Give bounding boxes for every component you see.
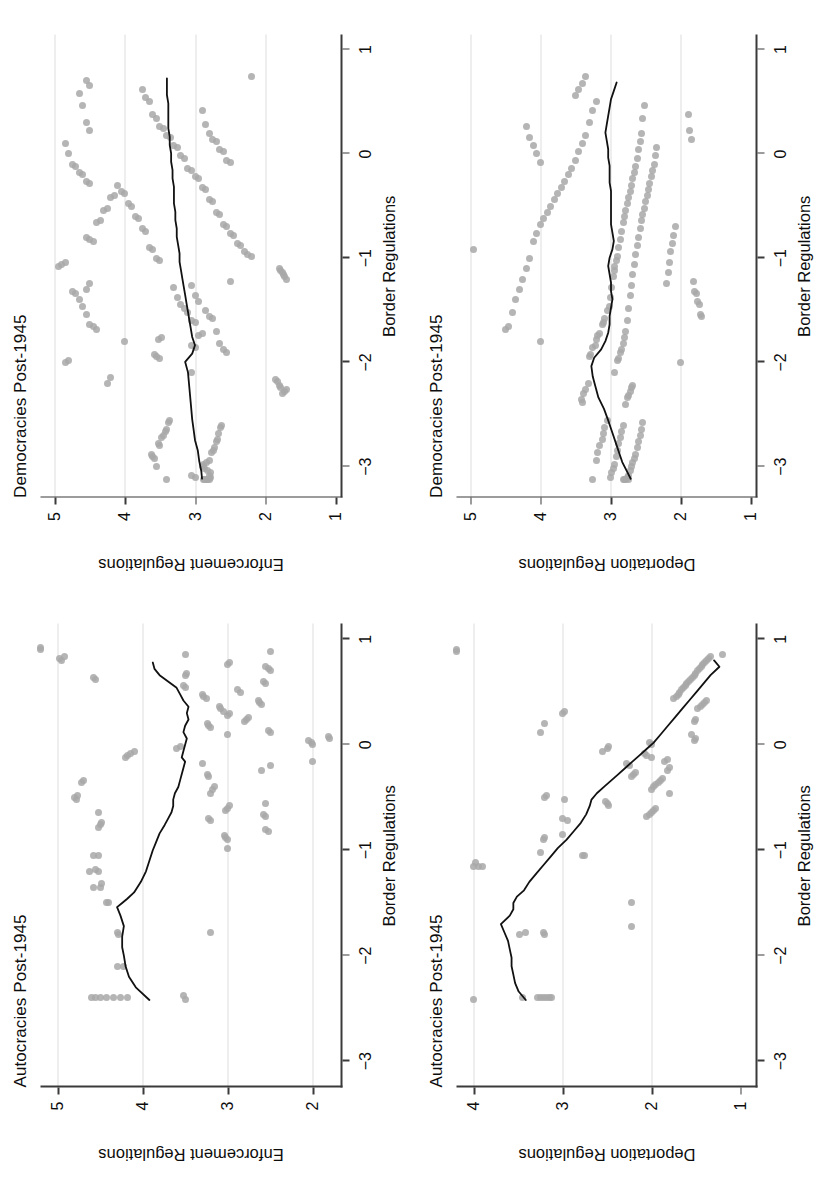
x-tick <box>342 465 349 467</box>
y-tick <box>610 498 612 505</box>
y-tick-label: 4 <box>464 1101 482 1110</box>
x-tick <box>757 48 764 50</box>
x-tick <box>342 848 349 850</box>
y-tick-label: 5 <box>461 512 479 521</box>
y-tick <box>540 498 542 505</box>
plot-area: −3−2−1012345 <box>40 624 342 1088</box>
panel-title: Autocracies Post-1945 <box>426 914 446 1087</box>
x-tick-label: −2 <box>356 946 374 964</box>
panel-democracies-deportation: Democracies Post-1945 Deportation Regula… <box>416 0 831 590</box>
y-tick-label: 1 <box>731 1101 749 1110</box>
x-tick-label: −3 <box>771 457 789 475</box>
x-tick <box>757 465 764 467</box>
x-tick-label: −3 <box>356 457 374 475</box>
y-tick <box>335 498 337 505</box>
y-tick-label: 1 <box>741 512 759 521</box>
x-tick-label: 0 <box>771 149 789 158</box>
x-tick-label: 1 <box>771 45 789 54</box>
y-tick-label: 4 <box>133 1101 151 1110</box>
panel-title: Democracies Post-1945 <box>10 314 30 498</box>
figure-canvas: Autocracies Post-1945 Enforcement Regula… <box>0 0 831 1179</box>
y-tick-label: 5 <box>48 1101 66 1110</box>
x-tick <box>342 152 349 154</box>
y-tick <box>265 498 267 505</box>
y-tick <box>124 498 126 505</box>
x-tick <box>757 954 764 956</box>
x-tick-label: −1 <box>771 841 789 859</box>
plot-area: −3−2−10112345 <box>456 34 758 498</box>
x-tick <box>342 48 349 50</box>
x-tick <box>757 360 764 362</box>
x-tick <box>342 954 349 956</box>
y-tick-label: 3 <box>601 512 619 521</box>
x-tick <box>342 360 349 362</box>
panel-autocracies-deportation: Autocracies Post-1945 Deportation Regula… <box>416 590 831 1179</box>
y-tick-label: 4 <box>531 512 549 521</box>
x-tick <box>757 637 764 639</box>
y-axis-title: Enforcement Regulations <box>40 1143 342 1165</box>
panel-autocracies-enforcement: Autocracies Post-1945 Enforcement Regula… <box>0 590 416 1179</box>
y-tick-label: 1 <box>326 512 344 521</box>
plot-area: −3−2−10112345 <box>40 34 342 498</box>
x-tick-label: 1 <box>771 634 789 643</box>
y-tick-label: 3 <box>218 1101 236 1110</box>
y-tick <box>195 498 197 505</box>
x-tick-label: 0 <box>771 740 789 749</box>
x-tick <box>757 848 764 850</box>
y-tick-label: 2 <box>303 1101 321 1110</box>
y-tick <box>57 1087 59 1094</box>
panel-title: Democracies Post-1945 <box>426 314 446 498</box>
x-tick-label: −1 <box>771 249 789 267</box>
y-tick <box>312 1087 314 1094</box>
trend-line <box>456 34 758 498</box>
x-tick-label: −1 <box>356 841 374 859</box>
y-tick <box>562 1087 564 1094</box>
panel-title: Autocracies Post-1945 <box>10 914 30 1087</box>
x-tick <box>757 256 764 258</box>
y-tick-label: 3 <box>553 1101 571 1110</box>
y-tick <box>470 498 472 505</box>
trend-line <box>40 34 342 498</box>
x-tick-label: −3 <box>771 1052 789 1070</box>
x-tick-label: −1 <box>356 249 374 267</box>
x-tick <box>342 1059 349 1061</box>
x-tick-label: 1 <box>356 634 374 643</box>
y-tick <box>651 1087 653 1094</box>
x-tick-label: −2 <box>356 353 374 371</box>
x-axis-title: Border Regulations <box>794 624 813 1088</box>
x-tick <box>342 743 349 745</box>
x-tick <box>342 637 349 639</box>
y-tick <box>142 1087 144 1094</box>
y-tick-label: 4 <box>115 512 133 521</box>
x-axis-title: Border Regulations <box>379 624 398 1088</box>
y-tick <box>227 1087 229 1094</box>
trend-line <box>456 624 758 1088</box>
x-tick-label: 1 <box>356 45 374 54</box>
y-tick <box>750 498 752 505</box>
y-tick <box>740 1087 742 1094</box>
y-tick <box>473 1087 475 1094</box>
y-tick <box>680 498 682 505</box>
x-tick-label: −2 <box>771 946 789 964</box>
x-tick-label: 0 <box>356 149 374 158</box>
plot-area: −3−2−1011234 <box>456 624 758 1088</box>
x-axis-title: Border Regulations <box>379 34 398 498</box>
x-tick <box>757 1059 764 1061</box>
panel-democracies-enforcement: Democracies Post-1945 Enforcement Regula… <box>0 0 416 590</box>
y-axis-title: Deportation Regulations <box>456 1143 758 1165</box>
y-tick-label: 2 <box>642 1101 660 1110</box>
x-tick <box>757 152 764 154</box>
y-tick-label: 2 <box>671 512 689 521</box>
y-tick-label: 5 <box>45 512 63 521</box>
y-tick-label: 2 <box>256 512 274 521</box>
y-tick <box>54 498 56 505</box>
x-tick <box>757 743 764 745</box>
panel-grid: Autocracies Post-1945 Enforcement Regula… <box>0 0 831 1179</box>
x-tick-label: 0 <box>356 740 374 749</box>
x-tick-label: −3 <box>356 1052 374 1070</box>
y-tick-label: 3 <box>186 512 204 521</box>
x-tick <box>342 256 349 258</box>
y-axis-title: Deportation Regulations <box>456 554 758 576</box>
y-axis-title: Enforcement Regulations <box>40 554 342 576</box>
x-axis-title: Border Regulations <box>794 34 813 498</box>
